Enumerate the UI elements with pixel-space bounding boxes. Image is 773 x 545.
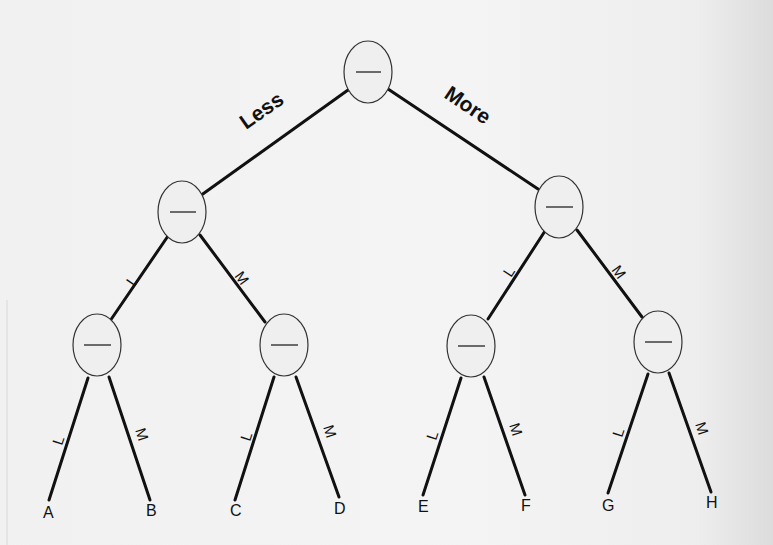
decision-tree-diagram: Less More L M L M L M L M L M L M	[0, 0, 773, 545]
leaf-H: H	[706, 494, 718, 511]
leaves: A B C D E F G H	[43, 494, 718, 521]
leaf-A: A	[43, 504, 54, 521]
leaf-D: D	[334, 500, 346, 517]
edge-F	[484, 377, 525, 495]
label-G-L: L	[609, 426, 628, 439]
nodes	[73, 41, 682, 377]
leaf-C: C	[230, 502, 242, 519]
leaf-E: E	[418, 498, 429, 515]
label-E-L: L	[423, 429, 442, 442]
label-D-M: M	[320, 423, 340, 440]
node-level2-RL	[447, 315, 495, 377]
label-more: More	[441, 81, 495, 128]
node-level2-RM	[634, 311, 682, 373]
label-left-M: M	[232, 268, 253, 288]
node-level1-right	[535, 176, 583, 238]
label-left-L: L	[122, 272, 141, 288]
leaf-F: F	[521, 497, 531, 514]
label-H-M: M	[692, 420, 712, 437]
label-C-L: L	[237, 430, 256, 443]
leaf-G: G	[602, 497, 614, 514]
node-level2-LM	[260, 314, 308, 376]
label-F-M: M	[506, 421, 526, 438]
node-root	[344, 41, 392, 103]
label-less: Less	[235, 87, 287, 133]
label-B-M: M	[132, 426, 152, 443]
edge-left-L	[110, 236, 168, 321]
node-level2-LL	[73, 314, 121, 376]
leaf-B: B	[146, 502, 157, 519]
edge-right-M	[577, 230, 642, 317]
node-level1-left	[158, 181, 206, 243]
label-A-L: L	[49, 434, 68, 447]
